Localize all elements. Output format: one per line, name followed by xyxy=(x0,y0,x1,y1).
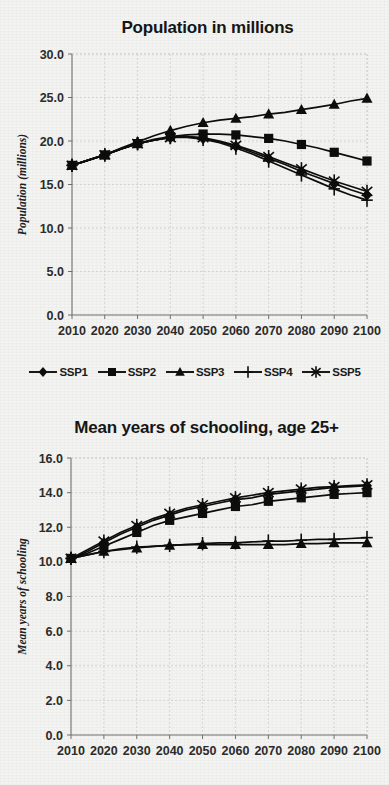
diamond-marker xyxy=(39,367,48,377)
square-marker xyxy=(362,156,371,165)
legend-item-ssp2[interactable]: SSP2 xyxy=(97,364,156,380)
y-axis-tick-label: 8.0 xyxy=(46,590,63,604)
x-axis-tick-label: 2040 xyxy=(156,744,184,758)
legend-item-ssp3[interactable]: SSP3 xyxy=(165,364,224,380)
y-axis-tick-label: 10.0 xyxy=(40,222,64,236)
x-axis-tick-label: 2080 xyxy=(287,744,315,758)
population-chart-panel: Population in millions 0.05.010.015.020.… xyxy=(0,0,389,390)
y-axis-tick-label: 14.0 xyxy=(39,486,63,500)
y-axis-tick-label: 6.0 xyxy=(46,625,63,639)
x-axis-tick-label: 2020 xyxy=(91,324,119,338)
square-marker xyxy=(330,148,339,157)
x-axis-tick-label: 2070 xyxy=(254,744,282,758)
y-axis-tick-label: 30.0 xyxy=(40,48,64,62)
x-axis-tick-label: 2030 xyxy=(123,744,151,758)
y-axis-tick-label: 12.0 xyxy=(39,521,63,535)
x-axis-tick-label: 2050 xyxy=(189,744,217,758)
legend-item-label: SSP5 xyxy=(332,366,360,378)
x-axis-tick-label: 2100 xyxy=(353,744,381,758)
legend-item-ssp4[interactable]: SSP4 xyxy=(233,364,292,380)
x-axis-tick-label: 2090 xyxy=(320,324,348,338)
y-axis-title: Mean years of schooling xyxy=(16,538,29,656)
plus-marker xyxy=(164,539,176,552)
x-axis-tick-label: 2090 xyxy=(320,744,348,758)
square-icon xyxy=(97,364,127,380)
x-axis-tick-label: 2050 xyxy=(189,324,217,338)
series-line xyxy=(72,138,367,201)
x-axis-tick-label: 2060 xyxy=(222,744,250,758)
series-ssp3 xyxy=(66,93,372,170)
plus-icon xyxy=(233,364,263,380)
x-axis-tick-label: 2020 xyxy=(90,744,118,758)
y-axis-tick-label: 0.0 xyxy=(47,309,64,323)
population-chart-plot: 0.05.010.015.020.025.030.020102020203020… xyxy=(0,38,389,368)
y-axis-tick-label: 15.0 xyxy=(40,178,64,192)
legend-item-ssp1[interactable]: SSP1 xyxy=(28,364,87,380)
x-axis-tick-label: 2070 xyxy=(255,324,283,338)
legend-item-label: SSP3 xyxy=(196,366,224,378)
y-axis-tick-label: 16.0 xyxy=(39,452,63,466)
plus-marker xyxy=(263,534,275,547)
y-axis-tick-label: 5.0 xyxy=(47,265,64,279)
plus-marker xyxy=(295,534,307,547)
series-line xyxy=(71,543,367,559)
scanned-page: Population in millions 0.05.010.015.020.… xyxy=(0,0,389,785)
x-axis-tick-label: 2060 xyxy=(222,324,250,338)
y-axis-tick-label: 20.0 xyxy=(40,135,64,149)
legend-item-label: SSP4 xyxy=(264,366,292,378)
x-axis-tick-label: 2080 xyxy=(288,324,316,338)
chart-legend: SSP1SSP2SSP3SSP4SSP5 xyxy=(0,358,389,386)
series-ssp4 xyxy=(65,531,373,565)
x-axis-tick-label: 2100 xyxy=(353,324,381,338)
triangle-marker xyxy=(361,93,372,103)
x-axis-tick-label: 2040 xyxy=(156,324,184,338)
series-ssp2 xyxy=(66,488,371,563)
schooling-chart-title: Mean years of schooling, age 25+ xyxy=(24,418,389,438)
y-axis-tick-label: 25.0 xyxy=(40,91,64,105)
y-axis-title: Population (millions) xyxy=(16,134,29,235)
series-ssp2 xyxy=(67,129,371,170)
square-marker xyxy=(231,130,240,139)
plus-marker xyxy=(243,366,253,378)
population-chart-title: Population in millions xyxy=(26,18,389,38)
asterisk-icon xyxy=(301,364,331,380)
series-ssp4 xyxy=(66,131,373,207)
schooling-chart-plot: 0.02.04.06.08.010.012.014.016.0201020202… xyxy=(0,438,389,778)
series-line xyxy=(71,486,367,559)
y-axis-tick-label: 2.0 xyxy=(46,694,63,708)
y-axis-tick-label: 0.0 xyxy=(46,729,63,743)
legend-item-ssp5[interactable]: SSP5 xyxy=(301,364,360,380)
x-axis-tick-label: 2030 xyxy=(124,324,152,338)
y-axis-tick-label: 10.0 xyxy=(39,555,63,569)
square-marker xyxy=(297,140,306,149)
x-axis-tick-label: 2010 xyxy=(57,744,85,758)
y-axis-tick-label: 4.0 xyxy=(46,659,63,673)
legend-item-label: SSP2 xyxy=(128,366,156,378)
square-marker xyxy=(108,368,116,376)
series-line xyxy=(72,137,367,195)
triangle-icon xyxy=(165,364,195,380)
schooling-chart-panel: Mean years of schooling, age 25+ 0.02.04… xyxy=(0,390,389,785)
square-marker xyxy=(264,134,273,143)
series-ssp5 xyxy=(66,478,373,565)
x-axis-tick-label: 2010 xyxy=(58,324,86,338)
series-line xyxy=(72,98,367,165)
plus-marker xyxy=(328,533,340,546)
diamond-icon xyxy=(28,364,58,380)
legend-item-label: SSP1 xyxy=(59,366,87,378)
